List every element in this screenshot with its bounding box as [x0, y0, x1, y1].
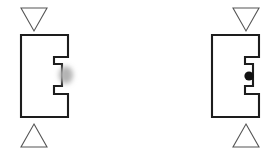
- triangle-up-icon: [233, 124, 259, 147]
- blurred-probe-dot: [59, 66, 73, 84]
- stimulus-left-blurred-probe: [0, 0, 140, 154]
- stimulus-right-sharp-probe: [140, 0, 280, 154]
- stimulus-left-canvas: [0, 0, 140, 154]
- triangle-down-icon: [233, 8, 259, 31]
- triangle-down-icon: [21, 8, 47, 31]
- triangle-up-icon: [21, 124, 47, 147]
- stimulus-stage: [0, 0, 280, 154]
- stimulus-right-canvas: [140, 0, 280, 154]
- sharp-probe-dot: [244, 71, 253, 80]
